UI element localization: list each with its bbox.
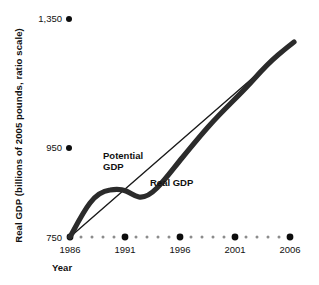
x-axis-major-ticks xyxy=(67,234,294,241)
gdp-chart: Real GDP (billions of 2005 pounds, ratio… xyxy=(0,0,319,285)
potential-gdp-annotation: Potential GDP xyxy=(103,150,143,172)
x-tick-label-1991: 1991 xyxy=(105,244,145,255)
plot-area xyxy=(0,0,319,285)
x-axis-title: Year xyxy=(52,262,72,273)
x-tick-label-2001: 2001 xyxy=(215,244,255,255)
x-tick-label-2006: 2006 xyxy=(270,244,310,255)
x-tick-label-1996: 1996 xyxy=(160,244,200,255)
x-tick-label-1986: 1986 xyxy=(50,244,90,255)
real-gdp-annotation: Real GDP xyxy=(150,177,193,188)
